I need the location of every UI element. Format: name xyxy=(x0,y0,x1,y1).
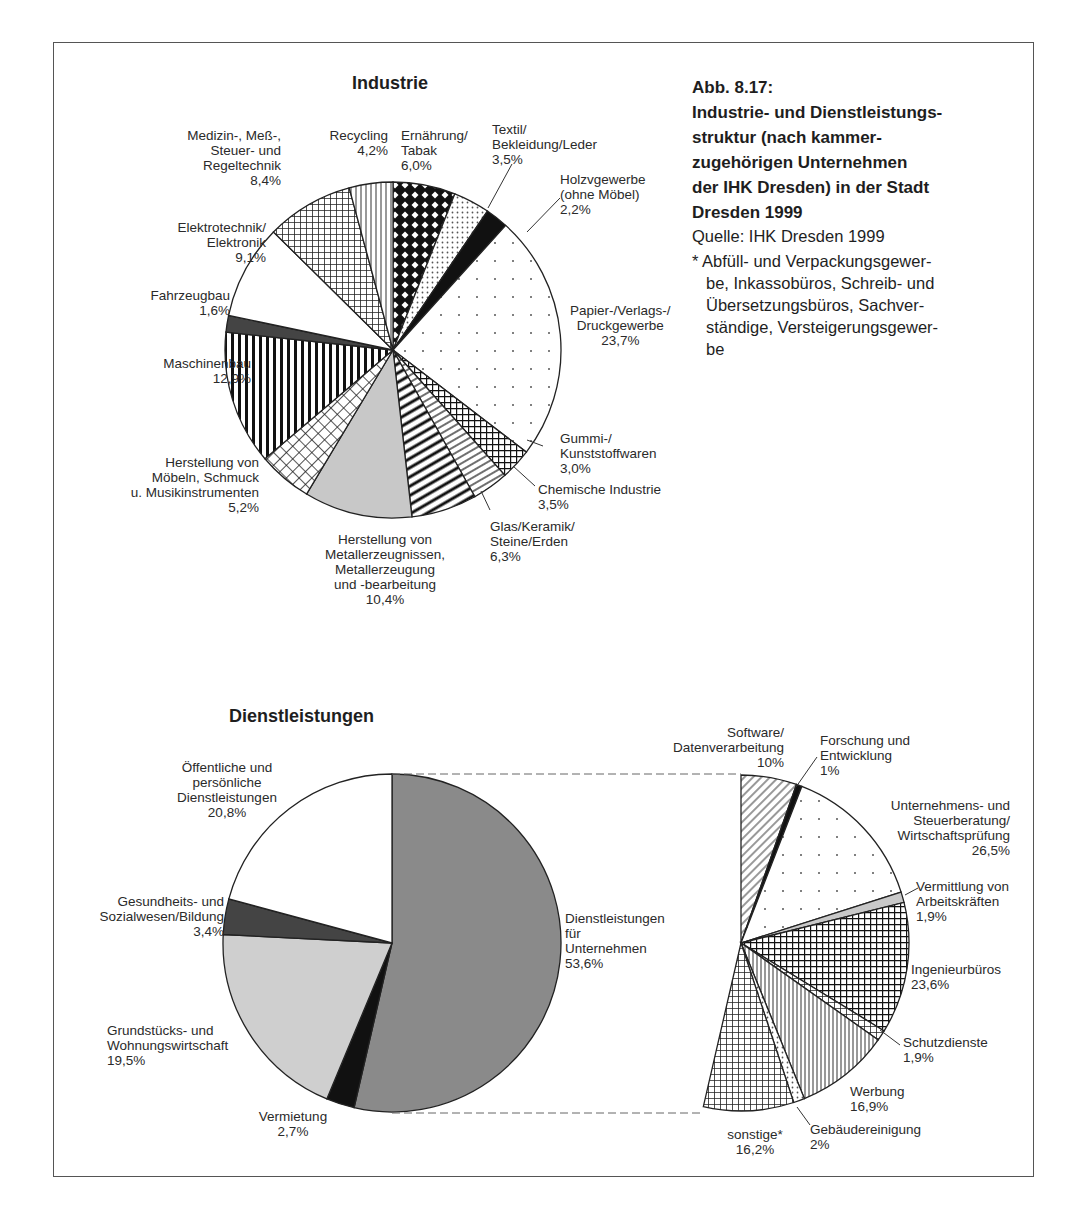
label-papier: Papier-/Verlags-/Druckgewerbe23,7% xyxy=(570,303,671,348)
label-holz: Holzvgewerbe(ohne Möbel)2,2% xyxy=(560,172,646,217)
label-grundstueck: Grundstücks- undWohnungswirtschaft19,5% xyxy=(107,1023,228,1068)
label-recycling: Recycling4,2% xyxy=(329,128,388,158)
label-glas: Glas/Keramik/Steine/Erden6,3% xyxy=(490,519,575,564)
label-gummi: Gummi-/Kunststoffwaren3,0% xyxy=(560,431,657,476)
label-werbung: Werbung16,9% xyxy=(850,1084,905,1114)
label-moebel: Herstellung vonMöbeln, Schmucku. Musikin… xyxy=(131,455,259,515)
label-ingenieur: Ingenieurbüros23,6% xyxy=(911,962,1001,992)
label-vermietung: Vermietung2,7% xyxy=(243,1109,343,1139)
figure-source: Quelle: IHK Dresden 1999 xyxy=(692,225,1012,247)
label-maschinen: Maschinenbau12,9% xyxy=(163,356,251,386)
figure-title: Industrie- und Dienstleistungs- struktur… xyxy=(692,100,1012,225)
label-textil: Textil/Bekleidung/Leder3,5% xyxy=(492,122,597,167)
pie-industrie xyxy=(225,182,561,518)
label-oeffentlich: Öffentliche undpersönlicheDienstleistung… xyxy=(162,760,292,820)
label-forschung: Forschung undEntwicklung1% xyxy=(820,733,910,778)
label-gesundheit: Gesundheits- undSozialwesen/Bildung3,4% xyxy=(99,894,224,939)
label-sonstige: sonstige*16,2% xyxy=(715,1127,795,1157)
label-ernaehrung: Ernährung/Tabak6,0% xyxy=(401,128,468,173)
pie-breakdown-unternehmen xyxy=(703,775,909,1111)
label-beratung: Unternehmens- undSteuerberatung/Wirtscha… xyxy=(891,798,1010,858)
figure-caption: Abb. 8.17: Industrie- und Dienstleistung… xyxy=(692,75,1012,360)
figure-footnote: * Abfüll- und Verpackungsgewer- be, Inka… xyxy=(692,250,1012,360)
label-schutz: Schutzdienste1,9% xyxy=(903,1035,988,1065)
pie-dienstleistungen xyxy=(223,774,561,1112)
figure-number: Abb. 8.17: xyxy=(692,75,1012,100)
label-fahrzeug: Fahrzeugbau1,6% xyxy=(150,288,230,318)
label-software: Software/Datenverarbeitung10% xyxy=(673,725,784,770)
label-vermittlung: Vermittlung vonArbeitskräften1,9% xyxy=(916,879,1009,924)
dienstleistungen-title: Dienstleistungen xyxy=(229,706,374,727)
label-unternehmen: DienstleistungenfürUnternehmen53,6% xyxy=(565,911,665,971)
label-elektro: Elektrotechnik/Elektronik9,1% xyxy=(177,220,266,265)
label-medizin: Medizin-, Meß-,Steuer- undRegeltechnik8,… xyxy=(187,128,281,188)
label-metall: Herstellung vonMetallerzeugnissen,Metall… xyxy=(300,532,470,607)
label-chemie: Chemische Industrie3,5% xyxy=(538,482,661,512)
label-gebaeude: Gebäudereinigung2% xyxy=(810,1122,921,1152)
industrie-title: Industrie xyxy=(352,73,428,94)
